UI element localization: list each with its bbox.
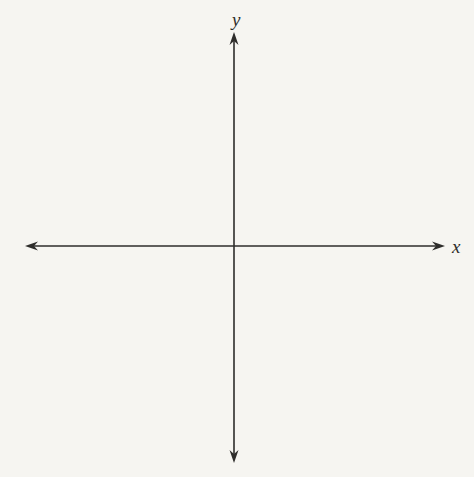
coordinate-plane-diagram: x y [0,0,474,477]
x-axis-label: x [451,236,461,257]
paper-background [0,0,474,477]
y-axis-label: y [230,9,241,30]
axes-canvas: x y [0,0,474,477]
